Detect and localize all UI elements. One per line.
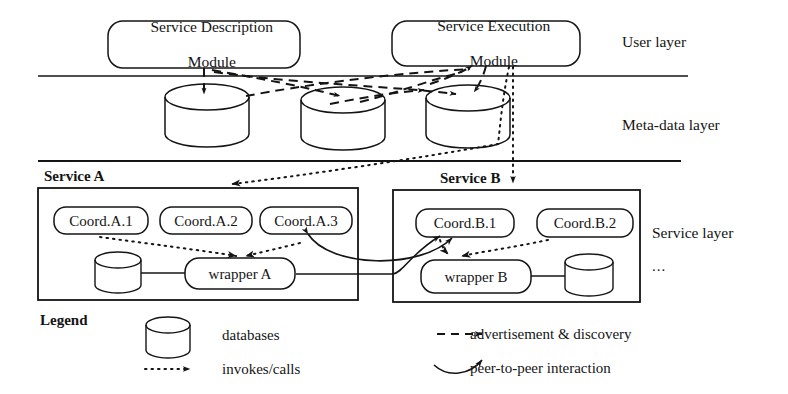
diagram-vector-layer xyxy=(0,0,788,394)
module-execution-line1: Service Execution xyxy=(437,17,550,34)
legend-title: Legend xyxy=(40,312,88,329)
coordinator-label-a1: Coord.A.1 xyxy=(69,213,132,230)
module-description-line1: Service Description xyxy=(150,18,273,35)
coordinator-label-a3: Coord.A.3 xyxy=(274,213,337,230)
legend-label-invokes: invokes/calls xyxy=(222,361,300,378)
service-a-title: Service A xyxy=(44,168,104,185)
layer-label-meta: Meta-data layer xyxy=(622,116,720,133)
module-label-description: Service Description Module xyxy=(135,1,273,88)
service-layer-ellipsis: ... xyxy=(652,258,666,275)
coordinator-label-b2: Coord.B.2 xyxy=(554,215,617,232)
layer-label-service: Service layer xyxy=(652,224,733,241)
legend-label-peer: peer-to-peer interaction xyxy=(470,360,611,377)
diagram-canvas: Service Description Module Service Execu… xyxy=(0,0,788,394)
service-b-invoke-dotted xyxy=(440,240,548,256)
coordinator-label-b1: Coord.B.1 xyxy=(434,215,497,232)
module-description-line2: Module xyxy=(188,53,236,70)
wrapper-a-label: wrapper A xyxy=(209,266,272,283)
legend-label-databases: databases xyxy=(222,327,279,344)
peer-to-peer-curve xyxy=(308,234,452,261)
metadata-cylinder-2[interactable] xyxy=(301,87,385,150)
module-label-execution: Service Execution Module xyxy=(422,0,551,86)
service-a-box[interactable] xyxy=(38,188,358,300)
layer-label-user: User layer xyxy=(622,33,686,50)
metadata-cylinder-3[interactable] xyxy=(426,85,510,148)
module-execution-line2: Module xyxy=(470,52,518,69)
wrapper-b-label: wrapper B xyxy=(445,269,508,286)
coordinator-label-a2: Coord.A.2 xyxy=(174,213,237,230)
service-a-database[interactable] xyxy=(95,252,141,293)
service-b-database[interactable] xyxy=(565,254,613,296)
legend-cylinder-icon xyxy=(146,317,190,358)
metadata-cylinder-1[interactable] xyxy=(165,84,249,147)
legend-label-advertisement: advertisement & discovery xyxy=(470,326,632,343)
service-b-title: Service B xyxy=(440,170,500,187)
